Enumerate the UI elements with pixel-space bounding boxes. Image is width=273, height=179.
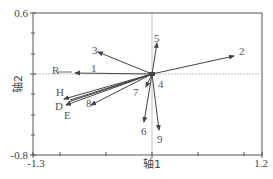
x-max-label: 1.2 <box>254 157 268 169</box>
label-5: 5 <box>154 32 160 44</box>
label-E: E <box>64 109 71 121</box>
arrow-1 <box>75 73 152 74</box>
x-min-label: -1.3 <box>27 157 45 169</box>
arrow-3 <box>98 52 152 74</box>
origin-marker <box>149 72 155 76</box>
y-min-label: -0.8 <box>11 149 29 161</box>
arrow-5 <box>152 43 157 74</box>
label-R: R <box>52 64 60 76</box>
label-3: 3 <box>92 44 98 56</box>
x-axis-title: 轴1 <box>143 157 161 171</box>
arrow-6 <box>144 74 152 122</box>
vector-arrows <box>64 43 234 130</box>
biplot-chart: 0.6 -0.8 -1.3 1.2 轴1 轴2 1 2 3 4 5 6 7 8 … <box>0 0 273 179</box>
y-axis-title: 轴2 <box>11 75 25 93</box>
label-4: 4 <box>158 78 164 90</box>
label-6: 6 <box>141 125 147 137</box>
label-1: 1 <box>91 62 97 74</box>
label-8: 8 <box>86 97 92 109</box>
arrow-2 <box>152 56 234 74</box>
y-max-label: 0.6 <box>14 7 28 19</box>
arrow-extra <box>70 74 152 100</box>
label-D: D <box>55 100 63 112</box>
label-9: 9 <box>157 133 163 145</box>
arrow-8 <box>91 74 152 105</box>
label-H: H <box>56 86 64 98</box>
label-2: 2 <box>239 45 245 57</box>
label-7: 7 <box>133 86 139 98</box>
